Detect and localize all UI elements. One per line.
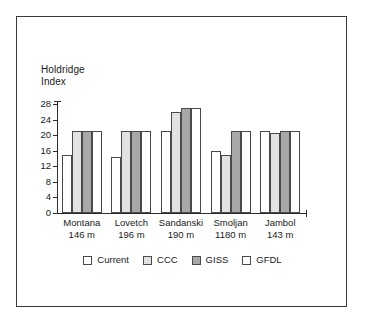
bar[interactable] xyxy=(141,131,151,213)
category-elevation: 146 m xyxy=(54,229,110,241)
category-elevation: 196 m xyxy=(104,229,160,241)
y-axis-tick-labels: 0481216202428 xyxy=(17,17,51,217)
category-label: Sandanski190 m xyxy=(153,217,209,241)
bar-group xyxy=(111,104,151,213)
bar[interactable] xyxy=(211,151,221,213)
y-tick-label-20: 20 xyxy=(21,130,51,140)
legend-label: GFDL xyxy=(256,255,281,265)
category-elevation: 190 m xyxy=(153,229,209,241)
legend-label: GISS xyxy=(206,255,229,265)
category-name: Sandanski xyxy=(153,217,209,229)
bar-group xyxy=(62,104,102,213)
legend-swatch-icon xyxy=(143,256,152,265)
bar[interactable] xyxy=(260,131,270,213)
bar[interactable] xyxy=(82,131,92,213)
bar-group xyxy=(260,104,300,213)
x-axis-right-cap xyxy=(306,210,307,217)
bar[interactable] xyxy=(191,108,201,213)
category-name: Lovetch xyxy=(104,217,160,229)
legend-swatch-icon xyxy=(83,256,92,265)
bar[interactable] xyxy=(161,131,171,213)
y-tick-label-12: 12 xyxy=(21,161,51,171)
legend-item[interactable]: Current xyxy=(83,255,129,265)
plot-area xyxy=(57,104,305,213)
y-tick-label-0: 0 xyxy=(21,208,51,218)
legend-label: Current xyxy=(97,255,129,265)
y-tick-label-16: 16 xyxy=(21,146,51,156)
bar-group xyxy=(211,104,251,213)
y-tick-label-4: 4 xyxy=(21,192,51,202)
bar[interactable] xyxy=(131,131,141,213)
bar[interactable] xyxy=(72,131,82,213)
bar[interactable] xyxy=(280,131,290,213)
bar[interactable] xyxy=(221,155,231,213)
category-label: Lovetch196 m xyxy=(104,217,160,241)
y-tick-label-8: 8 xyxy=(21,177,51,187)
bar[interactable] xyxy=(62,155,72,213)
legend-label: CCC xyxy=(157,255,178,265)
category-elevation: 1180 m xyxy=(203,229,259,241)
bar[interactable] xyxy=(111,157,121,213)
legend-item[interactable]: GFDL xyxy=(242,255,281,265)
category-label: Montana146 m xyxy=(54,217,110,241)
y-axis-top-cap xyxy=(54,101,61,102)
y-tick-label-24: 24 xyxy=(21,115,51,125)
y-tick-label-28: 28 xyxy=(21,99,51,109)
bar[interactable] xyxy=(171,112,181,213)
category-name: Montana xyxy=(54,217,110,229)
legend-swatch-icon xyxy=(192,256,201,265)
legend-item[interactable]: CCC xyxy=(143,255,178,265)
category-name: Smoljan xyxy=(203,217,259,229)
category-name: Jambol xyxy=(252,217,308,229)
legend-swatch-icon xyxy=(242,256,251,265)
bar[interactable] xyxy=(241,131,251,213)
bar[interactable] xyxy=(92,131,102,213)
bar[interactable] xyxy=(121,131,131,213)
y-tick-0 xyxy=(53,213,58,214)
bar[interactable] xyxy=(290,131,300,213)
bar[interactable] xyxy=(181,108,191,213)
bar-group xyxy=(161,104,201,213)
figure-frame: Holdridge Index 0481216202428 Montana146… xyxy=(16,16,347,307)
bar[interactable] xyxy=(270,133,280,213)
legend-item[interactable]: GISS xyxy=(192,255,229,265)
category-label: Smoljan1180 m xyxy=(203,217,259,241)
category-label: Jambol143 m xyxy=(252,217,308,241)
category-elevation: 143 m xyxy=(252,229,308,241)
legend: CurrentCCCGISSGFDL xyxy=(17,255,348,265)
bar[interactable] xyxy=(231,131,241,213)
x-axis-line xyxy=(57,213,307,214)
